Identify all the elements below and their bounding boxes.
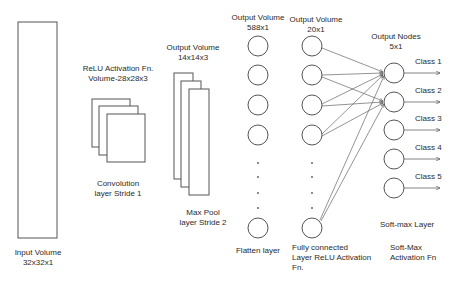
conv-feature-maps: [92, 99, 145, 162]
flatten-output-label: Output Volume 588x1: [226, 13, 290, 33]
fc-layer-label: Fully connected Layer ReLU Activation Fn…: [292, 243, 392, 273]
output-nodes-label: Output Nodes 5x1: [368, 32, 424, 52]
flatten-ellipsis: [257, 162, 259, 209]
softmax-layer-label: Soft-max Layer: [380, 220, 434, 230]
pool-feature-maps: [174, 73, 209, 195]
class-label-5: Class 5: [415, 172, 442, 182]
conv-layer-label: Convolution layer Stride 1: [86, 179, 150, 199]
flatten-layer-label: Flatten layer: [230, 246, 286, 256]
class-label-4: Class 4: [415, 143, 442, 153]
output-nodes: [384, 63, 404, 198]
fc-connections: [320, 48, 384, 221]
input-volume-label: Input Volume 32x32x1: [10, 248, 66, 268]
class-label-3: Class 3: [415, 114, 442, 124]
fc-ellipsis: [311, 162, 313, 209]
input-volume-box: [18, 22, 57, 238]
class-label-1: Class 1: [415, 57, 442, 67]
class-label-2: Class 2: [415, 86, 442, 96]
conv-activation-label: ReLU Activation Fn. Volume-28x28x3: [80, 64, 156, 84]
fc-output-label: Output Volume 20x1: [286, 15, 346, 35]
pool-layer-label: Max Pool layer Stride 2: [170, 208, 236, 228]
pool-output-label: Output Volume 14x14x3: [160, 43, 226, 63]
softmax-fn-label: Soft-Max Activation Fn: [390, 243, 436, 263]
